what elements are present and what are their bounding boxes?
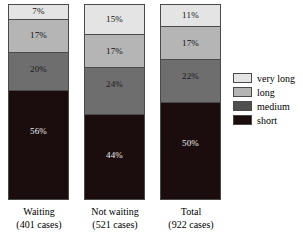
x-axis-label-total: Total (922 cases) bbox=[141, 205, 241, 231]
stacked-bar: 11% 17% 22% 50% bbox=[160, 4, 221, 200]
bar-group-total: 11% 17% 22% 50% bbox=[160, 4, 221, 200]
stacked-bar: 15% 17% 24% 44% bbox=[84, 4, 145, 200]
legend-item-label: long bbox=[257, 87, 275, 98]
legend-swatch-icon bbox=[233, 87, 252, 97]
bar-segment-short[interactable]: 50% bbox=[161, 102, 220, 199]
bar-segment-long[interactable]: 17% bbox=[85, 34, 144, 67]
legend-swatch-icon bbox=[233, 101, 252, 111]
segment-value-label: 7% bbox=[32, 7, 44, 16]
category-case-count: (922 cases) bbox=[141, 218, 241, 231]
segment-value-label: 15% bbox=[106, 15, 123, 24]
bar-segment-very-long[interactable]: 11% bbox=[161, 5, 220, 26]
x-axis-labels: Waiting (401 cases) Not waiting (521 cas… bbox=[0, 205, 240, 239]
segment-value-label: 50% bbox=[182, 139, 199, 148]
segment-value-label: 20% bbox=[30, 65, 47, 74]
legend-item-long[interactable]: long bbox=[233, 85, 303, 99]
segment-value-label: 24% bbox=[106, 80, 123, 89]
bar-group-waiting: 7% 17% 20% 56% bbox=[8, 4, 69, 200]
legend-item-label: short bbox=[257, 115, 277, 126]
bar-segment-very-long[interactable]: 15% bbox=[85, 5, 144, 34]
legend-item-label: medium bbox=[257, 101, 290, 112]
segment-value-label: 44% bbox=[106, 151, 123, 160]
bar-segment-short[interactable]: 44% bbox=[85, 114, 144, 199]
segment-value-label: 17% bbox=[182, 39, 199, 48]
bar-segment-short[interactable]: 56% bbox=[9, 90, 68, 199]
legend-item-very-long[interactable]: very long bbox=[233, 71, 303, 85]
bar-segment-very-long[interactable]: 7% bbox=[9, 5, 68, 19]
legend-swatch-icon bbox=[233, 115, 252, 125]
bar-segment-long[interactable]: 17% bbox=[161, 26, 220, 59]
legend-item-label: very long bbox=[257, 73, 295, 84]
legend-item-short[interactable]: short bbox=[233, 113, 303, 127]
bar-segment-medium[interactable]: 20% bbox=[9, 52, 68, 91]
stacked-bar-chart: 7% 17% 20% 56% 15% 17% 24% bbox=[0, 0, 303, 241]
segment-value-label: 17% bbox=[106, 47, 123, 56]
segment-value-label: 22% bbox=[182, 72, 199, 81]
segment-value-label: 17% bbox=[30, 31, 47, 40]
legend: very long long medium short bbox=[233, 71, 303, 127]
segment-value-label: 56% bbox=[30, 127, 47, 136]
bar-segment-medium[interactable]: 22% bbox=[161, 59, 220, 102]
legend-swatch-icon bbox=[233, 73, 252, 83]
stacked-bar: 7% 17% 20% 56% bbox=[8, 4, 69, 200]
bar-segment-long[interactable]: 17% bbox=[9, 19, 68, 52]
bar-segment-medium[interactable]: 24% bbox=[85, 67, 144, 114]
category-name: Total bbox=[141, 205, 241, 218]
bar-group-not-waiting: 15% 17% 24% 44% bbox=[84, 4, 145, 200]
legend-item-medium[interactable]: medium bbox=[233, 99, 303, 113]
segment-value-label: 11% bbox=[182, 11, 199, 20]
